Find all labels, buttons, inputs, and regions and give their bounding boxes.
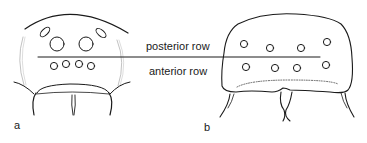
posterior-row-label: posterior row: [146, 41, 210, 52]
posterior-median-eye-left-a: [50, 37, 64, 51]
posterior-lateral-eye-right-a: [94, 27, 107, 39]
fang-right-a: [74, 95, 75, 115]
chelicera-right-a: [109, 93, 112, 115]
anterior-eye-2-b: [271, 64, 278, 71]
carapace-margin-dots-b: [237, 80, 338, 87]
chelicerae-base-a: [36, 92, 109, 94]
posterior-lateral-eye-left-a: [39, 26, 52, 39]
carapace-side-right-a: [117, 40, 122, 86]
posterior-eye-4-b: [323, 38, 330, 45]
anterior-eye-4-b: [322, 61, 329, 68]
panel-a: [14, 14, 130, 115]
anterior-eye-1-b: [242, 63, 249, 70]
anterior-eye-3-a: [75, 60, 82, 67]
leg-left-outer-b: [220, 94, 230, 117]
posterior-eye-3-b: [297, 44, 304, 51]
panel-b: [220, 14, 354, 121]
carapace-outline-a: [25, 14, 128, 33]
leg-right-outer-b: [345, 93, 354, 117]
anterior-row-label: anterior row: [149, 66, 207, 77]
anterior-eye-1-a: [50, 62, 57, 69]
fang-left-a: [72, 95, 73, 115]
carapace-side-left-a2: [22, 37, 26, 85]
chelicera-left-a: [33, 93, 36, 115]
clypeus-right-a: [110, 82, 130, 94]
posterior-eye-2-b: [266, 44, 273, 51]
posterior-median-eye-right-a: [79, 37, 93, 51]
clypeus-left-a: [14, 82, 34, 94]
chelicera-right-b: [286, 92, 293, 121]
carapace-outline-b: [222, 14, 353, 93]
anterior-eye-4-a: [87, 62, 94, 69]
panel-a-label: a: [14, 120, 20, 131]
chelicera-left-b: [280, 92, 284, 121]
posterior-eye-1-b: [240, 40, 247, 47]
panel-b-label: b: [204, 122, 210, 133]
anterior-eye-2-a: [62, 60, 69, 67]
anterior-eye-3-b: [293, 64, 300, 71]
